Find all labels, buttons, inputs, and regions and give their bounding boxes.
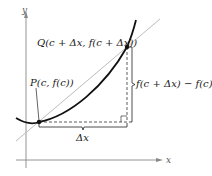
secant-line-diagram: y x P(c, f(c)) Q(c + Δx, f(c + Δx)) Δx f…: [0, 0, 212, 176]
point-q-label: Q(c + Δx, f(c + Δx)): [37, 37, 137, 48]
right-angle-marker: [121, 116, 127, 122]
y-axis-label: y: [21, 5, 28, 15]
x-axis-label: x: [166, 155, 171, 165]
function-curve: [16, 20, 136, 123]
point-p: [37, 120, 41, 124]
delta-x-brace: [39, 123, 127, 130]
x-axis-arrow-icon: [156, 158, 163, 162]
point-p-label: P(c, f(c)): [29, 77, 74, 88]
y-axis: [24, 11, 28, 168]
x-axis: [16, 158, 163, 162]
delta-y-label: f(c + Δx) − f(c): [135, 78, 212, 89]
diagram-canvas: y x P(c, f(c)) Q(c + Δx, f(c + Δx)) Δx f…: [0, 0, 212, 176]
delta-x-label: Δx: [75, 132, 89, 143]
p-leader-line: [36, 88, 39, 121]
delta-y-brace: [129, 47, 135, 122]
